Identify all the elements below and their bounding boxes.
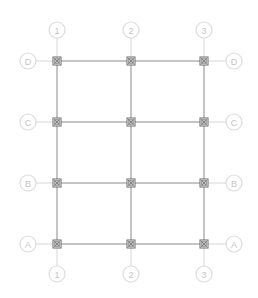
column-marker-3D	[200, 57, 208, 65]
row-bubble-A-left: A	[20, 236, 36, 252]
grid-bubble-label: C	[25, 118, 32, 128]
grid-bubble-label: B	[231, 179, 237, 189]
row-bubble-B-left: B	[20, 175, 36, 191]
column-marker-3C	[200, 118, 208, 126]
grid-bubble-label: D	[231, 57, 238, 67]
column-marker-3B	[200, 179, 208, 187]
grid-bubble-label: 3	[201, 26, 206, 36]
row-bubble-D-right: D	[226, 53, 242, 69]
column-marker-1D	[53, 57, 61, 65]
column-marker-2C	[127, 118, 135, 126]
column-bubble-1-bottom: 1	[49, 266, 65, 282]
grid-lines	[57, 61, 204, 244]
column-marker-3A	[200, 240, 208, 248]
column-bubble-2-bottom: 2	[123, 266, 139, 282]
grid-bubble-label: A	[25, 240, 31, 250]
row-bubble-D-left: D	[20, 53, 36, 69]
column-marker-2D	[127, 57, 135, 65]
column-marker-2B	[127, 179, 135, 187]
structural-grid-diagram: 112233DDCCBBAA	[0, 0, 258, 298]
grid-bubble-label: 1	[54, 26, 59, 36]
grid-bubble-label: 3	[201, 270, 206, 280]
grid-bubble-label: 2	[128, 26, 133, 36]
row-bubble-B-right: B	[226, 175, 242, 191]
grid-bubble-label: 1	[54, 270, 59, 280]
row-bubble-A-right: A	[226, 236, 242, 252]
column-marker-1A	[53, 240, 61, 248]
row-bubble-C-right: C	[226, 114, 242, 130]
grid-bubble-label: D	[25, 57, 32, 67]
row-bubble-C-left: C	[20, 114, 36, 130]
column-bubble-3-top: 3	[196, 22, 212, 38]
grid-bubble-label: 2	[128, 270, 133, 280]
column-bubble-3-bottom: 3	[196, 266, 212, 282]
column-marker-1C	[53, 118, 61, 126]
grid-bubble-label: C	[231, 118, 238, 128]
column-marker-2A	[127, 240, 135, 248]
grid-plan-svg: 112233DDCCBBAA	[0, 0, 258, 298]
column-bubble-1-top: 1	[49, 22, 65, 38]
grid-bubble-label: B	[25, 179, 31, 189]
column-bubble-2-top: 2	[123, 22, 139, 38]
grid-bubble-label: A	[231, 240, 237, 250]
column-marker-1B	[53, 179, 61, 187]
